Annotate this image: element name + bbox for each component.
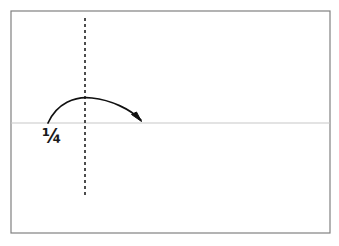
diagram-canvas: ¼ [0, 0, 339, 246]
fold-diagram-graphic [0, 0, 339, 246]
sheet-outline [11, 11, 330, 233]
fraction-label-one-quarter: ¼ [42, 127, 62, 146]
